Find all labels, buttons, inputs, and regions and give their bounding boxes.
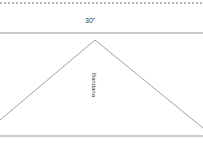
triangle-outline: [0, 40, 203, 128]
bandana-diagram: [0, 0, 203, 145]
shape-label: Bandana: [91, 73, 97, 97]
